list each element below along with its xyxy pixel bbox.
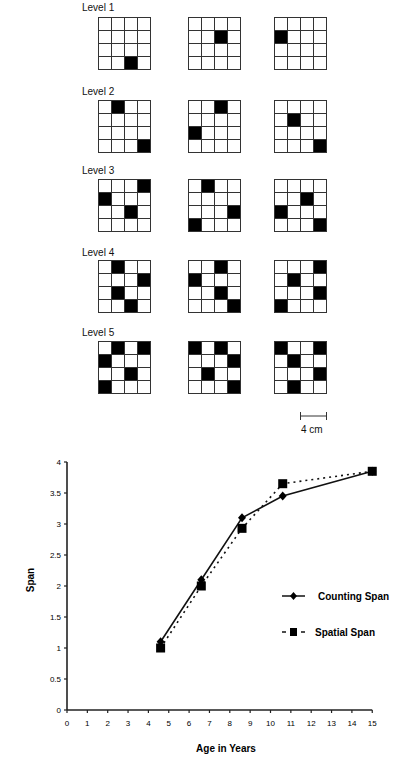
x-tick-label: 9 [248, 719, 253, 728]
grid-cell [288, 219, 301, 232]
grid-cell [112, 193, 125, 206]
grid-cell [202, 381, 215, 394]
grid-cell [112, 274, 125, 287]
grid-cell [125, 31, 138, 44]
grid-cell [138, 114, 151, 127]
filled-cell [125, 57, 138, 70]
grid-cell [275, 219, 288, 232]
grid-cell [314, 127, 327, 140]
level-label: Level 1 [82, 2, 114, 13]
grid-cell [301, 180, 314, 193]
grid-cell [138, 287, 151, 300]
grid-cell [275, 140, 288, 153]
x-tick-label: 15 [368, 719, 377, 728]
square-marker [278, 479, 287, 488]
filled-cell [99, 355, 112, 368]
grid-cell [228, 127, 241, 140]
grid-cell [288, 368, 301, 381]
grid-cell [99, 206, 112, 219]
grid-cell [138, 355, 151, 368]
filled-cell [99, 193, 112, 206]
y-tick-label: 3 [57, 520, 62, 529]
filled-cell [314, 140, 327, 153]
filled-cell [112, 261, 125, 274]
grid-cell [314, 18, 327, 31]
filled-cell [112, 101, 125, 114]
filled-cell [275, 206, 288, 219]
y-tick-label: 0 [57, 706, 62, 715]
grid-cell [189, 261, 202, 274]
grid-cell [99, 101, 112, 114]
grid-cell [189, 368, 202, 381]
grid-cell [99, 261, 112, 274]
grid-cell [125, 287, 138, 300]
grid-cell [215, 219, 228, 232]
grid-cell [275, 193, 288, 206]
grid-cell [138, 18, 151, 31]
grid-cell [112, 57, 125, 70]
level-label: Level 4 [82, 247, 114, 258]
scale-label: 4 cm [301, 424, 323, 435]
grid-cell [275, 355, 288, 368]
grid-cell [99, 127, 112, 140]
grid-cell [314, 114, 327, 127]
x-axis-title: Age in Years [196, 743, 256, 754]
x-tick-label: 14 [347, 719, 356, 728]
x-tick-label: 0 [65, 719, 70, 728]
grid-cell [112, 300, 125, 313]
grid-cell [99, 274, 112, 287]
grid-cell [189, 57, 202, 70]
grid-cell [202, 342, 215, 355]
grid-cell [301, 342, 314, 355]
grid-cell [228, 193, 241, 206]
grid-cell [275, 287, 288, 300]
filled-cell [99, 381, 112, 394]
filled-cell [301, 193, 314, 206]
grid-cell [215, 193, 228, 206]
grid-cell [125, 274, 138, 287]
grid-cell [215, 381, 228, 394]
grid-cell [301, 18, 314, 31]
filled-cell [125, 300, 138, 313]
grid-cell [125, 342, 138, 355]
grid-cell [138, 381, 151, 394]
filled-cell [138, 274, 151, 287]
stimulus-grid [274, 100, 327, 153]
grid-cell [112, 127, 125, 140]
filled-cell [275, 342, 288, 355]
grid-cell [189, 140, 202, 153]
filled-cell [215, 287, 228, 300]
grid-cell [138, 206, 151, 219]
y-tick-label: 4 [57, 458, 62, 467]
filled-cell [138, 140, 151, 153]
legend-counting-label: Counting Span [318, 591, 389, 602]
grid-cell [288, 127, 301, 140]
grid-cell [99, 300, 112, 313]
grid-cell [275, 261, 288, 274]
stimulus-grid [274, 179, 327, 232]
grid-cell [228, 274, 241, 287]
grid-cell [301, 355, 314, 368]
grid-cell [189, 193, 202, 206]
grid-cell [215, 368, 228, 381]
grid-cell [125, 355, 138, 368]
grid-cell [112, 355, 125, 368]
grid-cell [189, 31, 202, 44]
grid-cell [288, 101, 301, 114]
grid-cell [288, 44, 301, 57]
grid-cell [112, 140, 125, 153]
legend-spatial-label: Spatial Span [315, 627, 375, 638]
grid-cell [275, 114, 288, 127]
stimulus-grid [98, 179, 151, 232]
grid-cell [125, 180, 138, 193]
grid-cell [228, 219, 241, 232]
grid-cell [189, 18, 202, 31]
grid-cell [228, 101, 241, 114]
filled-cell [314, 287, 327, 300]
diamond-marker [197, 575, 205, 584]
filled-cell [228, 300, 241, 313]
grid-cell [202, 114, 215, 127]
grid-cell [125, 127, 138, 140]
grid-cell [202, 18, 215, 31]
grid-cell [138, 127, 151, 140]
